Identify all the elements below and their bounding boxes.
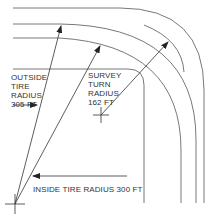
outside-tire-radius-label: OUTSIDE TIRE RADIUS 305 FT	[11, 73, 47, 109]
inside-radius-line	[15, 46, 100, 204]
label-line: 305 FT	[11, 100, 47, 109]
survey-turn-radius-label: SURVEY TURN RADIUS 162 FT	[88, 71, 121, 107]
turn-radius-diagram: OUTSIDE TIRE RADIUS 305 FT SURVEY TURN R…	[0, 0, 213, 216]
label-line: RADIUS	[88, 89, 121, 98]
label-line: TURN	[88, 80, 121, 89]
label-line: RADIUS	[11, 91, 47, 100]
label-line: SURVEY	[88, 71, 121, 80]
label-line: 162 FT	[88, 98, 121, 107]
inside-tire-radius-label: INSIDE TIRE RADIUS 300 FT	[33, 185, 143, 194]
partial-arc	[144, 25, 184, 72]
outside-radius-line	[15, 26, 61, 204]
survey-path	[13, 38, 181, 203]
label-line: OUTSIDE	[11, 73, 47, 82]
label-line: TIRE	[11, 82, 47, 91]
